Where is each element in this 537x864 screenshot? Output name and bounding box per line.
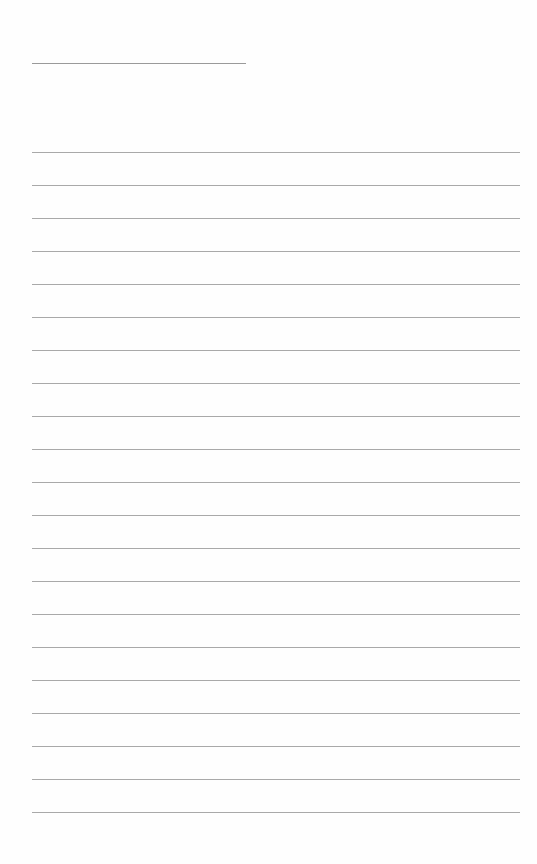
ruled-line	[32, 614, 520, 615]
ruled-line	[32, 449, 520, 450]
ruled-line	[32, 482, 520, 483]
ruled-line	[32, 746, 520, 747]
ruled-line	[32, 218, 520, 219]
header-rule	[32, 63, 246, 64]
ruled-line	[32, 317, 520, 318]
ruled-line	[32, 383, 520, 384]
lined-paper-page	[0, 0, 537, 864]
ruled-line	[32, 416, 520, 417]
ruled-line	[32, 251, 520, 252]
ruled-line	[32, 284, 520, 285]
ruled-line	[32, 812, 520, 813]
ruled-line	[32, 515, 520, 516]
ruled-line	[32, 185, 520, 186]
ruled-line	[32, 680, 520, 681]
ruled-line	[32, 713, 520, 714]
ruled-line	[32, 152, 520, 153]
ruled-line	[32, 779, 520, 780]
ruled-line	[32, 581, 520, 582]
ruled-line	[32, 647, 520, 648]
ruled-line	[32, 350, 520, 351]
ruled-line	[32, 548, 520, 549]
